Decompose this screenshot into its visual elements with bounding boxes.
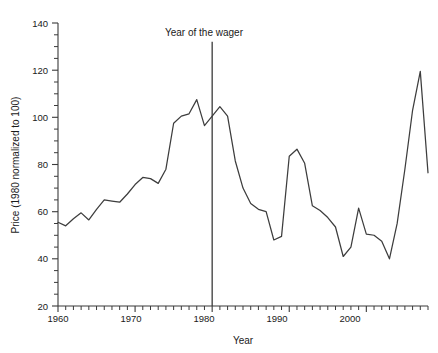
y-tick-label-120: 120 [32,65,48,76]
y-tick-label-60: 60 [37,206,48,217]
x-axis-title: Year [233,335,254,346]
y-tick-label-140: 140 [32,18,48,29]
y-tick-label-80: 80 [37,159,48,170]
y-axis-title: Price (1980 normalized to 100) [10,97,21,234]
x-tick-label-1990: 1990 [266,313,287,324]
chart-figure: 140 120 100 80 60 40 20 1960 1970 1980 1… [0,0,438,353]
x-tick-label-1980: 1980 [193,313,214,324]
axis-group [58,23,428,306]
y-tick-label-40: 40 [37,253,48,264]
y-axis-major-ticks [52,23,58,306]
x-tick-label-2000: 2000 [339,313,360,324]
wager-annotation-label: Year of the wager [165,27,244,38]
x-tick-label-1970: 1970 [120,313,141,324]
y-tick-label-20: 20 [37,301,48,312]
y-axis-tick-labels: 140 120 100 80 60 40 20 [32,18,48,312]
price-series-line [58,71,428,258]
price-line-chart: 140 120 100 80 60 40 20 1960 1970 1980 1… [0,0,438,353]
y-tick-label-100: 100 [32,112,48,123]
x-axis-ticks [58,306,428,312]
x-axis-tick-labels: 1960 1970 1980 1990 2000 [47,313,360,324]
annotation-year-of-the-wager: Year of the wager [165,27,244,306]
x-tick-label-1960: 1960 [47,313,68,324]
